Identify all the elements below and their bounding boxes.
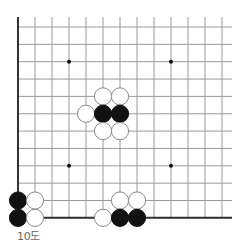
white-stone — [111, 88, 128, 105]
star-point — [67, 164, 71, 168]
white-stone — [26, 209, 43, 226]
white-stone — [94, 209, 111, 226]
black-stone — [94, 105, 111, 122]
star-point — [67, 60, 71, 64]
go-board-diagram: 10도 — [0, 0, 251, 249]
star-point — [169, 60, 173, 64]
diagram-caption: 10도 — [17, 230, 40, 244]
white-stone — [94, 123, 111, 140]
black-stone — [111, 105, 128, 122]
white-stone — [77, 105, 94, 122]
black-stone — [9, 192, 26, 209]
black-stone — [111, 209, 128, 226]
white-stone — [111, 192, 128, 209]
star-point — [169, 164, 173, 168]
go-board — [0, 0, 251, 249]
white-stone — [128, 192, 145, 209]
white-stone — [26, 192, 43, 209]
white-stone — [111, 123, 128, 140]
black-stone — [9, 209, 26, 226]
black-stone — [128, 209, 145, 226]
white-stone — [94, 88, 111, 105]
stones — [9, 88, 145, 227]
